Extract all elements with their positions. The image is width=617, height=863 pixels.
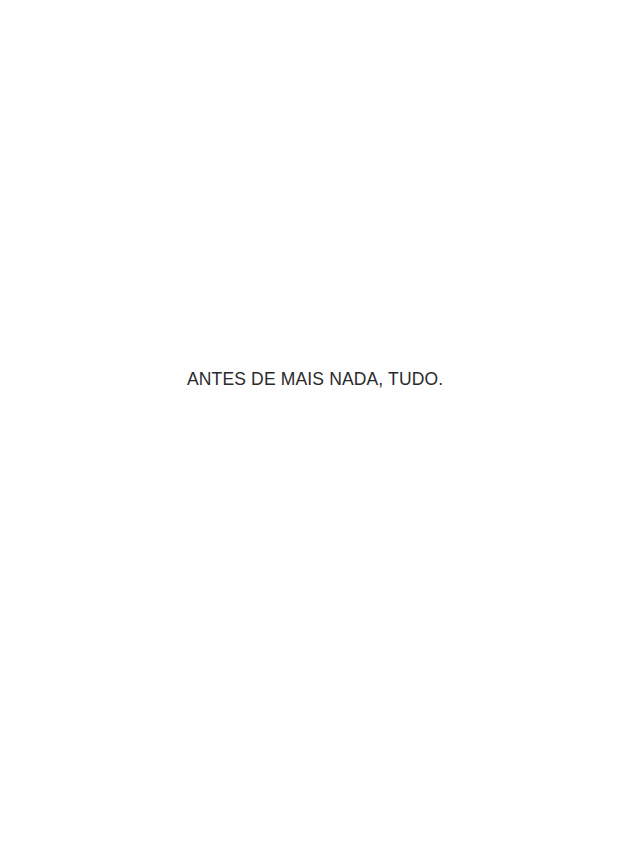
book-page: ANTES DE MAIS NADA, TUDO. [0, 0, 617, 863]
epigraph-text: ANTES DE MAIS NADA, TUDO. [187, 367, 443, 391]
